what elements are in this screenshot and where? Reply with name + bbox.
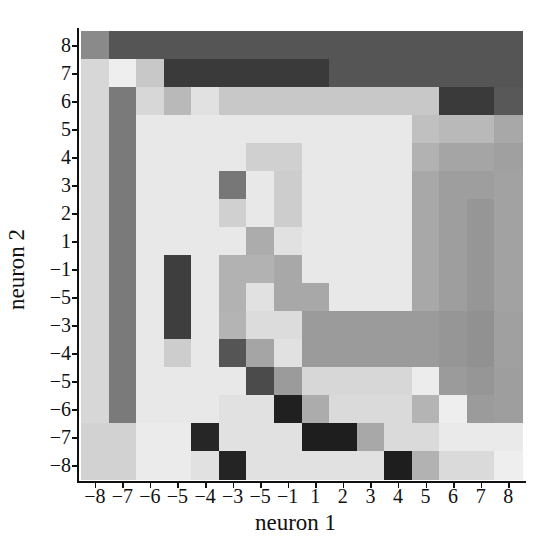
heatmap-plot-area	[81, 31, 522, 479]
y-tick-mark	[72, 129, 78, 131]
y-tick-mark	[72, 353, 78, 355]
heatmap-cell	[81, 255, 109, 284]
heatmap-cell	[384, 283, 412, 312]
heatmap-cell	[109, 87, 137, 116]
heatmap-cell	[164, 367, 192, 396]
heatmap-cell	[191, 31, 219, 60]
heatmap-cell	[439, 451, 467, 480]
heatmap-cell	[164, 87, 192, 116]
heatmap-cell	[439, 59, 467, 88]
x-tick-label: 8	[493, 486, 523, 506]
heatmap-cell	[164, 339, 192, 368]
heatmap-cell	[246, 367, 274, 396]
heatmap-cell	[246, 395, 274, 424]
heatmap-cell	[274, 395, 302, 424]
heatmap-cell	[274, 311, 302, 340]
heatmap-cell	[81, 143, 109, 172]
heatmap-cell	[109, 395, 137, 424]
heatmap-cell	[439, 87, 467, 116]
heatmap-cell	[81, 423, 109, 452]
heatmap-cell	[467, 283, 495, 312]
y-tick-label: 1	[61, 231, 71, 251]
heatmap-cell	[467, 395, 495, 424]
heatmap-cell	[219, 227, 247, 256]
heatmap-cell	[357, 115, 385, 144]
heatmap-cell	[136, 171, 164, 200]
heatmap-cell	[191, 199, 219, 228]
y-tick-label: −5	[50, 287, 71, 307]
heatmap-cell	[494, 199, 522, 228]
heatmap-cell	[412, 59, 440, 88]
heatmap-cell	[329, 227, 357, 256]
heatmap-cell	[164, 423, 192, 452]
heatmap-cell	[412, 451, 440, 480]
heatmap-cell	[109, 255, 137, 284]
y-tick-label: −8	[50, 455, 71, 475]
heatmap-cell	[302, 395, 330, 424]
heatmap-cell	[302, 31, 330, 60]
heatmap-cell	[439, 339, 467, 368]
heatmap-cell	[412, 283, 440, 312]
heatmap-cell	[439, 423, 467, 452]
y-tick-mark	[72, 185, 78, 187]
y-tick-label: 8	[61, 35, 71, 55]
heatmap-cell	[467, 31, 495, 60]
x-tick-label: 2	[328, 486, 358, 506]
heatmap-cell	[81, 115, 109, 144]
heatmap-cell	[329, 367, 357, 396]
heatmap-cell	[274, 59, 302, 88]
heatmap-cell	[329, 451, 357, 480]
heatmap-cell	[494, 59, 522, 88]
heatmap-cell	[219, 423, 247, 452]
y-tick-label: −6	[50, 399, 71, 419]
heatmap-cell	[109, 227, 137, 256]
heatmap-cell	[329, 115, 357, 144]
heatmap-cell	[494, 451, 522, 480]
x-tick-label: −7	[107, 486, 137, 506]
heatmap-cell	[467, 115, 495, 144]
heatmap-cell	[384, 59, 412, 88]
heatmap-cell	[302, 423, 330, 452]
heatmap-cell	[136, 87, 164, 116]
heatmap-cell	[81, 59, 109, 88]
heatmap-cell	[357, 451, 385, 480]
x-tick-label: 5	[411, 486, 441, 506]
heatmap-cell	[384, 143, 412, 172]
heatmap-cell	[412, 395, 440, 424]
x-tick-label: −8	[80, 486, 110, 506]
heatmap-cell	[164, 451, 192, 480]
y-tick-label: 3	[61, 175, 71, 195]
heatmap-cell	[412, 143, 440, 172]
heatmap-cell	[329, 87, 357, 116]
heatmap-cell	[494, 143, 522, 172]
heatmap-cell	[246, 451, 274, 480]
y-tick-label: −7	[50, 427, 71, 447]
y-tick-mark	[72, 381, 78, 383]
heatmap-cell	[109, 31, 137, 60]
y-tick-mark	[72, 101, 78, 103]
heatmap-cell	[357, 87, 385, 116]
heatmap-cell	[494, 339, 522, 368]
heatmap-cell	[164, 31, 192, 60]
heatmap-cell	[357, 171, 385, 200]
heatmap-cell	[357, 395, 385, 424]
heatmap-cell	[219, 255, 247, 284]
heatmap-cell	[246, 115, 274, 144]
heatmap-cell	[136, 115, 164, 144]
heatmap-cell	[246, 87, 274, 116]
heatmap-cell	[136, 311, 164, 340]
y-tick-label: −4	[50, 343, 71, 363]
heatmap-cell	[191, 395, 219, 424]
heatmap-cell	[384, 339, 412, 368]
heatmap-cell	[136, 31, 164, 60]
heatmap-cell	[274, 367, 302, 396]
heatmap-cell	[329, 311, 357, 340]
heatmap-cell	[357, 311, 385, 340]
x-tick-label: −4	[190, 486, 220, 506]
heatmap-cell	[412, 115, 440, 144]
y-axis-line	[77, 28, 79, 483]
heatmap-cell	[494, 87, 522, 116]
heatmap-cell	[274, 199, 302, 228]
heatmap-cell	[109, 423, 137, 452]
heatmap-cell	[246, 227, 274, 256]
